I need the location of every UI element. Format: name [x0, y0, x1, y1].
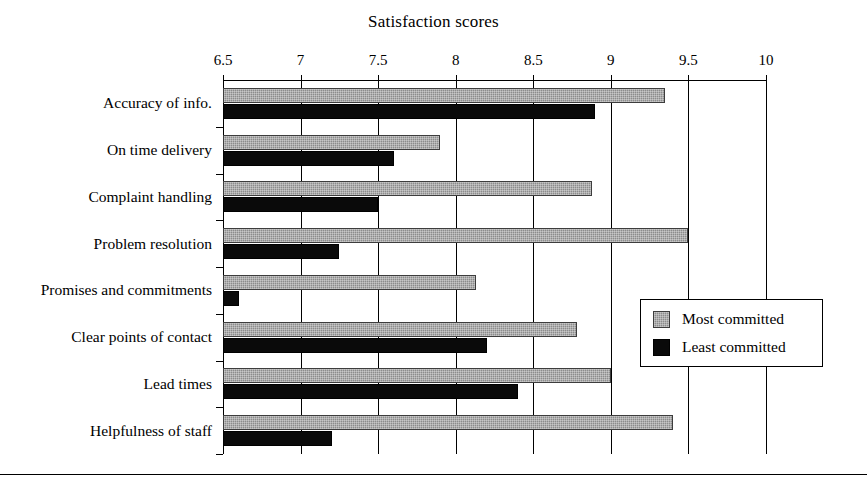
- legend-label-least-committed: Least committed: [682, 338, 786, 356]
- x-tick-label: 8: [452, 52, 460, 69]
- bar-most-committed: [223, 88, 665, 103]
- y-tick-mark: [216, 361, 223, 362]
- bar-most-committed: [223, 322, 577, 337]
- x-tick-label: 7.5: [369, 52, 388, 69]
- bar-least-committed: [223, 291, 239, 306]
- bar-least-committed: [223, 104, 595, 119]
- category-label: On time delivery: [0, 141, 212, 159]
- category-label: Clear points of contact: [0, 328, 212, 346]
- category-label: Accuracy of info.: [0, 94, 212, 112]
- category-label: Problem resolution: [0, 235, 212, 253]
- category-label: Promises and commitments: [0, 281, 212, 299]
- x-tick-label: 7: [297, 52, 305, 69]
- category-label: Complaint handling: [0, 188, 212, 206]
- gridline: [611, 80, 612, 454]
- bar-most-committed: [223, 181, 592, 196]
- category-label: Helpfulness of staff: [0, 422, 212, 440]
- plot-area: [223, 80, 766, 454]
- y-tick-mark: [216, 127, 223, 128]
- x-tick-label: 9: [607, 52, 615, 69]
- bar-most-committed: [223, 415, 673, 430]
- bar-least-committed: [223, 197, 378, 212]
- bar-most-committed: [223, 135, 440, 150]
- y-tick-mark: [216, 220, 223, 221]
- bar-most-committed: [223, 275, 476, 290]
- satisfaction-scores-chart: Satisfaction scores 6.577.588.599.510 Ac…: [0, 0, 867, 498]
- bar-least-committed: [223, 384, 518, 399]
- x-tick-label: 10: [759, 52, 774, 69]
- bar-least-committed: [223, 431, 332, 446]
- bar-least-committed: [223, 244, 339, 259]
- legend-swatch-most-committed-icon: [653, 311, 670, 328]
- y-tick-mark: [216, 407, 223, 408]
- legend-label-most-committed: Most committed: [682, 310, 784, 328]
- x-tick-label: 8.5: [524, 52, 543, 69]
- legend-item-most-committed: Most committed: [653, 310, 784, 328]
- legend-item-least-committed: Least committed: [653, 338, 786, 356]
- bar-most-committed: [223, 228, 688, 243]
- chart-title: Satisfaction scores: [0, 12, 867, 32]
- y-tick-mark: [216, 314, 223, 315]
- x-axis-tick-labels: 6.577.588.599.510: [0, 52, 867, 72]
- y-tick-mark: [216, 267, 223, 268]
- bar-least-committed: [223, 338, 487, 353]
- gridline: [766, 80, 767, 454]
- y-tick-mark: [216, 174, 223, 175]
- x-tick-label: 9.5: [679, 52, 698, 69]
- gridline: [533, 80, 534, 454]
- x-tick-label: 6.5: [214, 52, 233, 69]
- category-label: Lead times: [0, 375, 212, 393]
- bar-most-committed: [223, 368, 611, 383]
- legend-swatch-least-committed-icon: [653, 339, 670, 356]
- y-tick-mark: [216, 454, 223, 455]
- chart-legend: Most committed Least committed: [640, 299, 823, 367]
- bar-least-committed: [223, 151, 394, 166]
- gridline: [688, 80, 689, 454]
- page-bottom-rule: [0, 474, 867, 475]
